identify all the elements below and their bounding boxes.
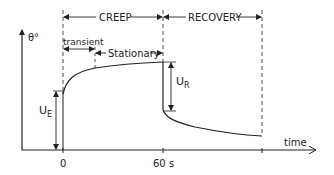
x-axis-label: time (284, 137, 307, 148)
tick-label-0: 0 (60, 158, 66, 169)
transient-label: transient (63, 37, 104, 47)
creep-label: CREEP (99, 12, 132, 23)
ue-label: UE (39, 104, 52, 119)
recovery-label: RECOVERY (188, 12, 242, 23)
creep-recovery-diagram: θ° time 0 60 s CREEP RECOVERY transient … (0, 0, 334, 175)
creep-curve (63, 62, 163, 94)
ur-label: UR (176, 75, 190, 90)
y-axis-label: θ° (28, 32, 39, 43)
tick-label-60: 60 s (153, 158, 174, 169)
stationary-label: Stationary (108, 48, 160, 59)
recovery-curve (163, 110, 262, 136)
